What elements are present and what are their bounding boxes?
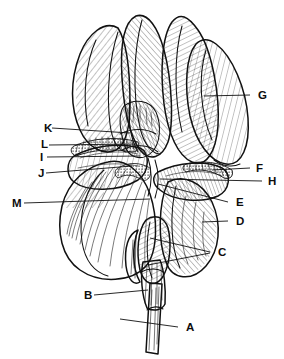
label-B: B	[84, 289, 92, 301]
label-G: G	[258, 89, 267, 101]
stem-veins	[149, 287, 159, 350]
label-A: A	[186, 321, 194, 333]
label-J: J	[38, 167, 44, 179]
leader-B	[94, 290, 148, 295]
label-H: H	[268, 175, 276, 187]
label-C: C	[218, 246, 226, 258]
iris-illustration-svg: A B C D E F G H I J K L M	[0, 0, 284, 359]
stem-group	[146, 283, 163, 354]
label-F: F	[256, 162, 263, 174]
label-I: I	[40, 151, 43, 163]
iris-flower-figure: A B C D E F G H I J K L M	[0, 0, 284, 359]
label-K: K	[44, 122, 53, 134]
label-M: M	[12, 197, 22, 209]
leader-A	[120, 319, 178, 327]
label-L: L	[41, 138, 48, 150]
label-E: E	[236, 196, 244, 208]
label-D: D	[236, 215, 244, 227]
